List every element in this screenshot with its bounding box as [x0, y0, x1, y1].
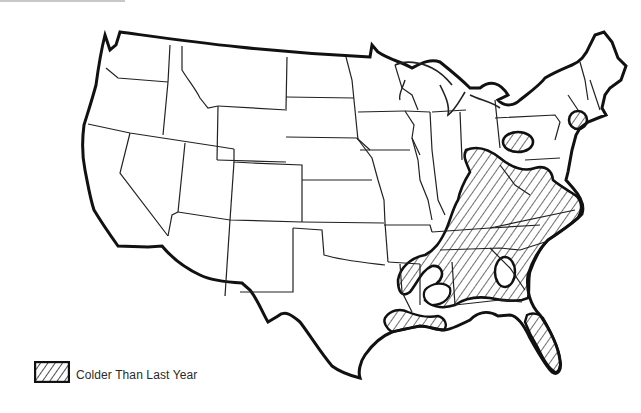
us-map [0, 0, 641, 413]
hatched-region-pennsylvania [503, 132, 533, 152]
legend: Colder Than Last Year [34, 361, 197, 383]
hatch-swatch-icon [34, 361, 70, 383]
unshaded-pocket-georgia [495, 257, 515, 287]
legend-label: Colder Than Last Year [76, 368, 197, 382]
